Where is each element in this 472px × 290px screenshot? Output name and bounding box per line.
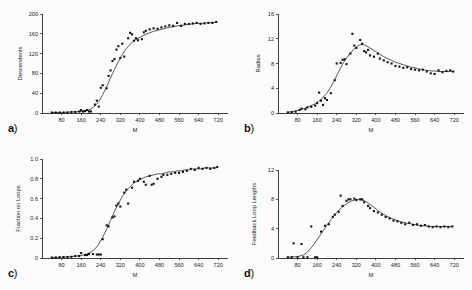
y-tick-label: 120 xyxy=(29,51,38,57)
y-tick-label: 0.4 xyxy=(30,215,38,221)
data-point xyxy=(209,168,211,170)
panel-label-b-paren: ) xyxy=(250,122,253,134)
data-point xyxy=(363,50,365,52)
data-point xyxy=(322,104,324,106)
y-tick-label: 0 xyxy=(35,110,38,116)
data-point xyxy=(119,205,121,207)
data-point xyxy=(355,199,357,201)
panel-label-a: a) xyxy=(8,122,17,134)
data-point xyxy=(342,205,344,207)
data-point xyxy=(74,255,76,257)
x-tick-label: 560 xyxy=(174,262,183,268)
data-point xyxy=(306,106,308,108)
data-point xyxy=(293,242,295,244)
data-point xyxy=(55,256,57,258)
data-point xyxy=(66,111,68,113)
data-point xyxy=(383,59,385,61)
x-tick-label: 560 xyxy=(410,117,419,123)
data-point xyxy=(361,43,363,45)
data-point xyxy=(420,225,422,227)
data-point xyxy=(377,211,379,213)
y-tick-label: 0.6 xyxy=(30,196,38,202)
data-point xyxy=(381,214,383,216)
data-point xyxy=(127,37,129,39)
data-point xyxy=(51,111,53,113)
data-point xyxy=(385,216,387,218)
data-point xyxy=(102,238,104,240)
data-point xyxy=(300,108,302,110)
data-point xyxy=(143,31,145,33)
data-point xyxy=(330,92,332,94)
data-point xyxy=(129,32,131,34)
data-point xyxy=(389,217,391,219)
data-point xyxy=(452,70,454,72)
y-tick-label: 160 xyxy=(29,31,38,37)
y-axis-title: Fraction on Loops xyxy=(15,185,21,232)
data-point xyxy=(109,69,111,71)
x-tick-label: 400 xyxy=(371,262,380,268)
x-tick-label: 640 xyxy=(430,262,439,268)
data-point xyxy=(127,203,129,205)
data-point xyxy=(320,231,322,233)
data-point xyxy=(418,69,420,71)
data-point xyxy=(160,176,162,178)
data-point xyxy=(316,102,318,104)
data-point xyxy=(170,173,172,175)
data-point xyxy=(369,207,371,209)
data-point xyxy=(436,225,438,227)
data-point xyxy=(84,110,86,112)
data-point xyxy=(117,45,119,47)
panel-d-plot: 0481280160240320400480560640720MFeedback… xyxy=(236,145,472,290)
data-point xyxy=(180,25,182,27)
x-tick-label: 80 xyxy=(58,117,64,123)
data-point xyxy=(62,111,64,113)
data-point xyxy=(162,174,164,176)
data-point xyxy=(137,39,139,41)
panel-a: 0408012016020080160240320400480560640720… xyxy=(0,0,236,145)
data-point xyxy=(345,200,347,202)
panel-label-b: b) xyxy=(244,122,254,134)
x-tick-label: 320 xyxy=(352,117,361,123)
data-point xyxy=(438,69,440,71)
data-point xyxy=(74,111,76,113)
data-point xyxy=(166,174,168,176)
y-tick-label: 0 xyxy=(271,255,274,261)
y-tick-label: 16 xyxy=(268,11,274,17)
x-tick-label: 160 xyxy=(312,117,321,123)
data-point xyxy=(324,97,326,99)
data-point xyxy=(361,198,363,200)
data-point xyxy=(359,39,361,41)
fit-curve xyxy=(52,22,216,112)
x-tick-label: 240 xyxy=(96,117,105,123)
data-point xyxy=(131,187,133,189)
data-point xyxy=(316,256,318,258)
data-point xyxy=(443,225,445,227)
data-point xyxy=(297,256,299,258)
x-tick-label: 80 xyxy=(294,262,300,268)
data-point xyxy=(200,23,202,25)
data-point xyxy=(115,204,117,206)
data-point xyxy=(143,181,145,183)
data-point xyxy=(449,69,451,71)
data-point xyxy=(447,226,449,228)
data-point xyxy=(412,224,414,226)
y-tick-label: 12 xyxy=(268,36,274,42)
data-point xyxy=(353,45,355,47)
data-point xyxy=(168,24,170,26)
data-point xyxy=(396,220,398,222)
data-point xyxy=(151,184,153,186)
y-tick-label: 0 xyxy=(35,255,38,261)
data-point xyxy=(100,87,102,89)
data-point xyxy=(141,38,143,40)
data-point xyxy=(445,70,447,72)
data-point xyxy=(394,65,396,67)
data-point xyxy=(295,111,297,113)
x-tick-label: 640 xyxy=(430,117,439,123)
data-point xyxy=(318,92,320,94)
data-point xyxy=(70,111,72,113)
data-point xyxy=(149,28,151,30)
data-point xyxy=(287,256,289,258)
data-point xyxy=(367,205,369,207)
data-point xyxy=(100,253,102,255)
data-point xyxy=(196,22,198,24)
